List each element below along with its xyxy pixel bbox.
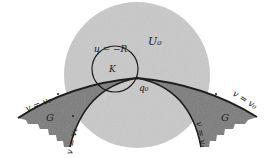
tick-mark bbox=[215, 93, 217, 95]
label-u0: U₀ bbox=[148, 35, 162, 48]
label-g-left: G bbox=[46, 112, 54, 123]
tick-mark bbox=[72, 115, 74, 117]
tick-mark bbox=[57, 93, 59, 95]
label-k: K bbox=[108, 64, 117, 74]
label-circle-eq: u = −R bbox=[94, 44, 128, 54]
label-g-right: G bbox=[221, 112, 229, 123]
figure: U₀ u = −R K q₀ v = v₀ v = v₀ v = v₁ v = … bbox=[0, 0, 274, 158]
label-q0: q₀ bbox=[139, 83, 149, 93]
point-q0 bbox=[135, 76, 138, 79]
